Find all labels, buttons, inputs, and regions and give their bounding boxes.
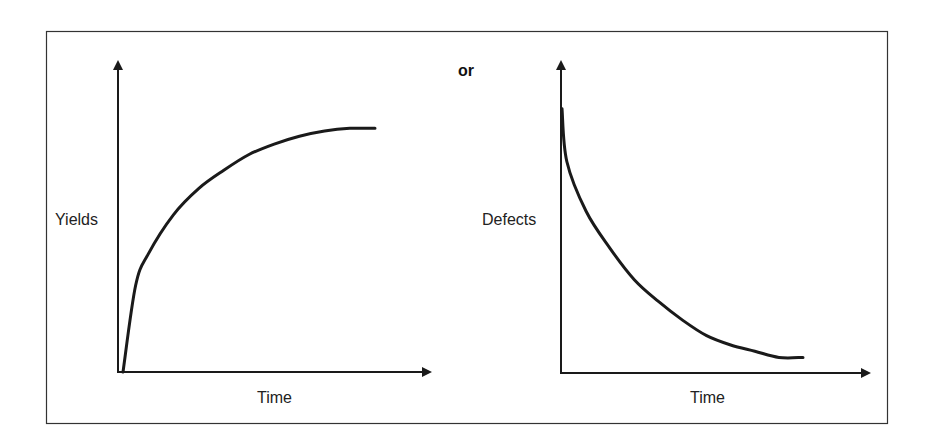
yields-xlabel: Time: [257, 389, 292, 406]
outer-frame: [47, 32, 888, 424]
defects-ylabel: Defects: [482, 211, 536, 228]
yields-chart: Yields Time: [55, 62, 430, 406]
yields-ylabel: Yields: [55, 211, 98, 228]
defects-xlabel: Time: [690, 389, 725, 406]
defects-chart: Defects Time: [482, 62, 869, 406]
diagram-canvas: Yields Time or Defects Time: [0, 0, 931, 442]
separator-or: or: [458, 62, 474, 79]
defects-curve: [562, 109, 803, 358]
yields-curve: [123, 128, 375, 372]
